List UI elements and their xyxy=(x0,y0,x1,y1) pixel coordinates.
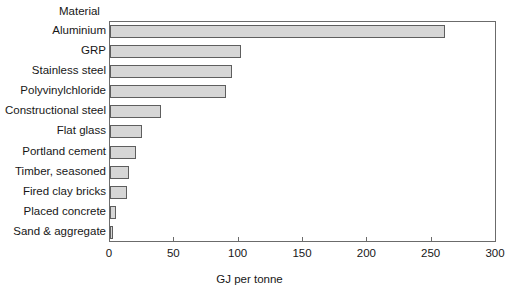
plot-area xyxy=(109,21,496,242)
category-label: Sand & aggregate xyxy=(3,225,106,238)
value-axis-tick-mark xyxy=(238,237,239,242)
category-label: Portland cement xyxy=(3,145,106,158)
bar xyxy=(110,206,116,219)
category-label: Constructional steel xyxy=(3,104,106,117)
value-axis-tick-label: 300 xyxy=(475,246,515,260)
category-label: Polyvinylchloride xyxy=(3,84,106,97)
bar xyxy=(110,186,127,199)
value-axis-tick-label: 100 xyxy=(218,246,258,260)
bar xyxy=(110,125,142,138)
value-axis-tick-mark xyxy=(173,237,174,242)
bars-container xyxy=(110,22,495,241)
category-label: Flat glass xyxy=(3,124,106,137)
value-axis-tick-mark xyxy=(366,237,367,242)
category-label: GRP xyxy=(3,44,106,57)
bar xyxy=(110,226,113,239)
bar xyxy=(110,45,241,58)
bar xyxy=(110,85,226,98)
bar xyxy=(110,166,129,179)
value-axis-tick-label: 250 xyxy=(411,246,451,260)
value-axis-tick-mark xyxy=(302,237,303,242)
category-label: Placed concrete xyxy=(3,205,106,218)
value-axis-tick-mark xyxy=(431,237,432,242)
bar xyxy=(110,105,161,118)
value-axis-tick-label: 50 xyxy=(153,246,193,260)
bar xyxy=(110,65,232,78)
category-label: Aluminium xyxy=(3,24,106,37)
category-label: Timber, seasoned xyxy=(3,165,106,178)
value-axis-tick-label: 200 xyxy=(346,246,386,260)
bar xyxy=(110,25,445,38)
category-label: Fired clay bricks xyxy=(3,185,106,198)
category-label: Stainless steel xyxy=(3,64,106,77)
value-axis-tick-label: 150 xyxy=(282,246,322,260)
bar-chart: Material AluminiumGRPStainless steelPoly… xyxy=(0,0,515,300)
category-axis-labels: AluminiumGRPStainless steelPolyvinylchlo… xyxy=(0,21,106,242)
category-axis-title: Material xyxy=(59,4,100,18)
value-axis-title: GJ per tonne xyxy=(0,272,515,286)
value-axis-title-text: GJ per tonne xyxy=(216,273,282,285)
value-axis-tick-label: 0 xyxy=(89,246,129,260)
bar xyxy=(110,146,136,159)
